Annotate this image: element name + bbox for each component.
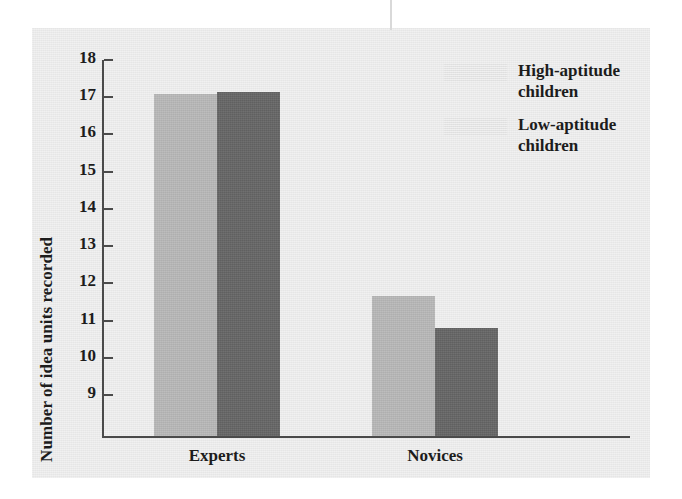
y-axis-tick-label: 11 [80,310,96,328]
legend-label-line2: children [518,136,578,155]
bar-texture [154,94,217,437]
legend-swatch-low-aptitude [444,117,507,136]
legend-label-line1: High-aptitude [518,61,620,80]
y-axis-tick-label: 18 [79,49,96,67]
y-axis-tick: 13 [104,245,113,247]
y-axis-tick-label: 10 [79,347,96,365]
bar-texture [435,328,498,436]
y-axis-tick-label: 13 [79,235,96,253]
legend-label-low-aptitude: Low-aptitude children [518,114,616,156]
legend-label-high-aptitude: High-aptitude children [518,60,620,102]
y-axis-tick: 14 [104,208,113,210]
y-axis-title-wrapper: Number of idea units recorded [46,432,47,433]
legend-item-high-aptitude: High-aptitude children [444,60,650,102]
plot-area: 1817161514131211109 ExpertsNovices Numbe… [32,28,650,478]
y-axis-title: Number of idea units recorded [37,82,59,462]
scan-artifact-line [390,0,392,30]
x-axis-line [102,436,630,438]
bar-texture [217,92,280,436]
legend-swatch-texture [444,117,507,136]
y-axis-tick: 9 [104,394,113,396]
bar-novices-high-aptitude [372,296,435,436]
chart-legend: High-aptitude children Low-aptitude chil… [444,60,650,168]
x-axis-label-novices: Novices [355,446,515,466]
y-axis-line [102,60,104,437]
y-axis-tick-label: 15 [79,161,96,179]
y-axis-tick: 15 [104,171,113,173]
bar-experts-high-aptitude [154,94,217,437]
y-axis-tick-label: 16 [79,123,96,141]
legend-item-low-aptitude: Low-aptitude children [444,114,650,156]
y-axis-tick-label: 9 [88,384,97,402]
y-axis-tick: 18 [104,59,113,61]
legend-label-line1: Low-aptitude [518,115,616,134]
x-axis-label-experts: Experts [137,446,297,466]
y-axis-tick: 11 [104,320,113,322]
y-axis-tick: 16 [104,133,113,135]
y-axis-tick: 10 [104,357,113,359]
y-axis-tick: 12 [104,282,113,284]
bar-texture [372,296,435,436]
legend-swatch-high-aptitude [444,63,507,82]
bar-experts-low-aptitude [217,92,280,436]
y-axis-tick-label: 17 [79,86,96,104]
y-axis-tick: 17 [104,96,113,98]
legend-label-line2: children [518,82,578,101]
y-axis-tick-label: 12 [79,272,96,290]
bar-novices-low-aptitude [435,328,498,436]
y-axis-tick-label: 14 [79,198,96,216]
legend-swatch-texture [444,63,507,82]
figure-panel: 1817161514131211109 ExpertsNovices Numbe… [32,28,650,478]
